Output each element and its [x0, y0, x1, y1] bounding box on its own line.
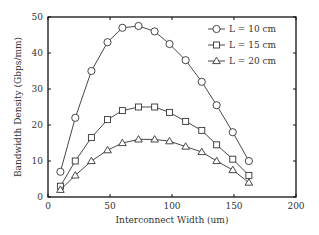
square-marker — [88, 135, 94, 141]
line-chart: 05010015020001020304050L = 10 cmL = 15 c… — [0, 0, 319, 235]
square-marker — [230, 156, 236, 162]
triangle-marker — [213, 157, 221, 163]
circle-marker — [198, 78, 205, 85]
circle-marker — [57, 168, 64, 175]
circle-marker — [88, 67, 95, 74]
x-tick-label: 100 — [163, 201, 180, 211]
legend-triangle-icon — [213, 57, 221, 63]
circle-marker — [166, 40, 173, 47]
square-marker — [246, 172, 252, 178]
triangle-marker — [135, 136, 143, 142]
legend-label: L = 10 cm — [229, 24, 277, 34]
square-marker — [199, 127, 205, 133]
square-marker — [72, 158, 78, 164]
square-marker — [105, 117, 111, 123]
y-tick-label: 10 — [32, 156, 44, 166]
circle-marker — [72, 114, 79, 121]
square-marker — [183, 118, 189, 124]
x-tick-label: 150 — [225, 201, 242, 211]
circle-marker — [182, 57, 189, 64]
circle-marker — [119, 24, 126, 31]
y-tick-label: 0 — [37, 192, 43, 202]
x-tick-label: 200 — [287, 201, 304, 211]
x-tick-label: 50 — [104, 201, 116, 211]
series-line — [60, 139, 248, 189]
triangle-marker — [229, 166, 237, 172]
triangle-marker — [245, 179, 253, 185]
square-marker — [119, 108, 125, 114]
x-tick-label: 0 — [45, 201, 51, 211]
square-marker — [167, 109, 173, 115]
legend-label: L = 15 cm — [229, 40, 277, 50]
triangle-marker — [88, 157, 96, 163]
series-line — [60, 26, 248, 172]
square-marker — [214, 142, 220, 148]
circle-marker — [229, 129, 236, 136]
square-marker — [152, 104, 158, 110]
triangle-marker — [151, 136, 159, 142]
square-marker — [136, 104, 142, 110]
series-line — [60, 107, 248, 186]
circle-marker — [104, 39, 111, 46]
legend-circle-icon — [213, 25, 220, 32]
circle-marker — [135, 22, 142, 29]
y-tick-label: 20 — [32, 120, 44, 130]
legend-square-icon — [214, 42, 220, 48]
y-axis-label: Bandwidth Density (Gbps/mm) — [13, 37, 23, 177]
circle-marker — [213, 102, 220, 109]
y-tick-label: 30 — [32, 84, 44, 94]
triangle-marker — [104, 146, 112, 152]
y-tick-label: 40 — [32, 48, 44, 58]
x-axis-label: Interconnect Width (um) — [116, 215, 229, 225]
circle-marker — [151, 28, 158, 35]
legend-label: L = 20 cm — [229, 56, 277, 66]
circle-marker — [245, 157, 252, 164]
y-tick-label: 50 — [32, 12, 44, 22]
